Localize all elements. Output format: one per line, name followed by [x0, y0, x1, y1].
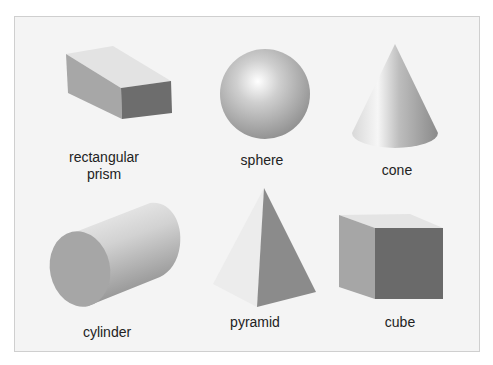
sphere-shape	[220, 49, 310, 139]
label-cone: cone	[382, 162, 412, 179]
label-sphere: sphere	[241, 152, 284, 169]
label-cylinder: cylinder	[83, 324, 131, 341]
cone-shape	[352, 44, 438, 148]
cylinder-shape	[43, 203, 181, 313]
rectangular-prism-shape	[66, 46, 172, 119]
pyramid-shape	[213, 188, 316, 307]
label-pyramid: pyramid	[230, 314, 280, 331]
label-cube: cube	[385, 314, 415, 331]
label-rectangular-prism: rectangular prism	[69, 149, 139, 183]
cube-shape	[339, 214, 443, 299]
